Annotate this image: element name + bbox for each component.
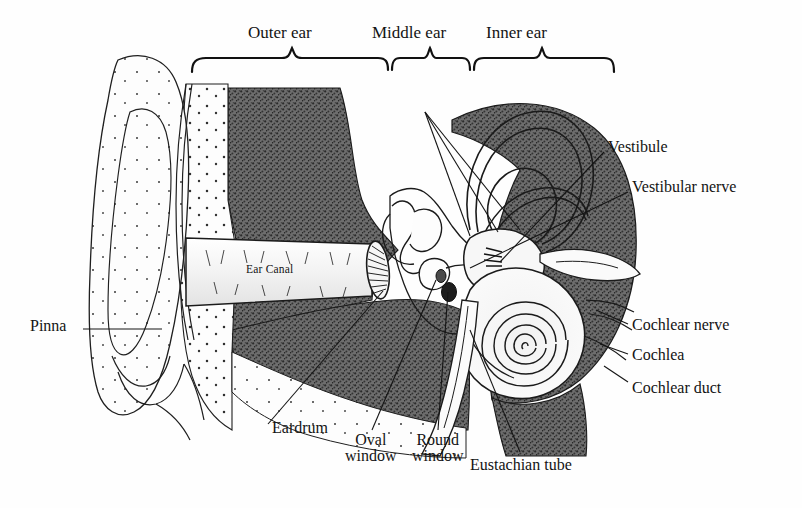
callout-label-eustachian-tube: Eustachian tube [470,457,572,473]
pinna [89,56,188,415]
round-window-line2: window [412,448,464,464]
round-window [442,283,457,302]
callout-label-eardrum: Eardrum [272,420,328,436]
callout-label-pinna: Pinna [30,318,66,334]
callout-label-cochlea: Cochlea [632,347,684,363]
callout-label-cochlear-nerve: Cochlear nerve [632,317,729,333]
callout-label-round-window: Roundwindow [412,432,464,464]
oval-window-line1: Oval [345,432,397,448]
cochlear-duct-leader [604,366,628,382]
region-label-2: Inner ear [486,24,547,41]
region-label-1: Middle ear [372,24,446,41]
callout-label-vestibule: Vestibule [608,139,668,155]
oval-window-line2: window [345,448,397,464]
region-braces [192,48,614,72]
inline-label-ear-canal: Ear Canal [246,264,293,276]
callout-label-vestibular-nerve: Vestibular nerve [632,179,736,195]
round-window-line1: Round [412,432,464,448]
oval-window [436,270,446,283]
region-label-0: Outer ear [248,24,312,41]
callout-label-oval-window: Ovalwindow [345,432,397,464]
diagram-artwork [0,0,802,508]
callout-label-cochlear-duct: Cochlear duct [632,380,721,396]
ear-anatomy-diagram: Outer earMiddle earInner earPinnaVestibu… [0,0,802,508]
